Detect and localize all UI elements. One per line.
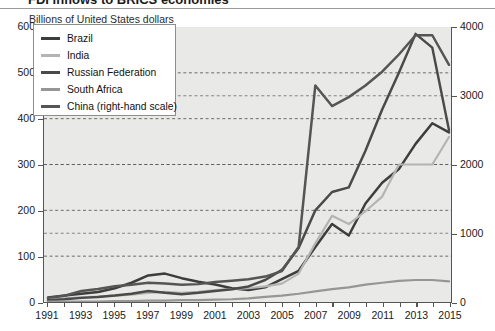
x-axis-tickmark — [332, 303, 333, 307]
chart-root: FDI inflows to BRICS economies Billions … — [0, 0, 495, 331]
x-axis-tickmark — [181, 303, 182, 307]
x-axis-tickmark — [148, 303, 149, 307]
x-axis-tickmark — [114, 303, 115, 307]
y-axis-right-tickmark — [452, 165, 457, 166]
legend-swatch-china — [41, 105, 60, 108]
y-axis-right-tickmark — [452, 96, 457, 97]
legend-label-china: China (right-hand scale) — [67, 101, 177, 112]
y-axis-right-tickmark — [452, 27, 457, 28]
y-axis-right-tick: 0 — [460, 296, 495, 308]
legend-item-0: Brazil — [41, 30, 175, 47]
x-axis-tickmark — [383, 303, 384, 307]
legend-label-brazil: Brazil — [67, 33, 93, 44]
y-axis-left-tick: 400 — [2, 112, 35, 124]
x-axis-tickmark — [198, 303, 199, 307]
y-axis-right-tick: 3000 — [460, 89, 495, 101]
chart-legend: Brazil India Russian Federation South Af… — [33, 24, 176, 116]
y-axis-left-tick: 300 — [2, 158, 35, 170]
legend-label-india: India — [67, 50, 89, 61]
y-axis-left-tick: 200 — [2, 204, 35, 216]
chart-title: FDI inflows to BRICS economies — [28, 0, 229, 7]
y-axis-left-tick: 500 — [2, 66, 35, 78]
x-axis-tickmark — [400, 303, 401, 307]
legend-swatch-russian-federation — [41, 71, 60, 74]
y-axis-right-tick: 4000 — [460, 20, 495, 32]
y-axis-right-tick: 1000 — [460, 227, 495, 239]
y-axis-left-tickmark — [38, 257, 43, 258]
y-axis-left-tickmark — [38, 303, 43, 304]
x-axis-tickmark — [450, 303, 451, 307]
legend-item-1: India — [41, 47, 175, 64]
x-axis-tickmark — [299, 303, 300, 307]
legend-swatch-south-africa — [41, 88, 60, 91]
x-axis-tickmark — [282, 303, 283, 307]
x-axis-tickmark — [215, 303, 216, 307]
y-axis-left-tick: 100 — [2, 250, 35, 262]
y-axis-right-tick: 2000 — [460, 158, 495, 170]
x-axis-tickmark — [416, 303, 417, 307]
x-axis-tickmark — [316, 303, 317, 307]
legend-label-south-africa: South Africa — [67, 84, 123, 95]
x-axis-tickmark — [366, 303, 367, 307]
y-axis-left-tick: 0 — [2, 296, 35, 308]
x-axis-tickmark — [97, 303, 98, 307]
header-divider — [0, 8, 495, 9]
x-axis-tick: 2015 — [430, 309, 470, 321]
y-axis-left-tickmark — [38, 119, 43, 120]
y-axis-left-tickmark — [38, 165, 43, 166]
legend-item-2: Russian Federation — [41, 64, 175, 81]
series-line — [48, 137, 449, 299]
x-axis-tickmark — [47, 303, 48, 307]
y-axis-left-tick: 600 — [2, 20, 35, 32]
x-axis-tickmark — [165, 303, 166, 307]
legend-item-4: China (right-hand scale) — [41, 98, 175, 115]
x-axis-tickmark — [265, 303, 266, 307]
y-axis-right-tickmark — [452, 234, 457, 235]
x-axis-tickmark — [131, 303, 132, 307]
y-axis-left-tickmark — [38, 211, 43, 212]
x-axis-tickmark — [232, 303, 233, 307]
x-axis-tickmark — [249, 303, 250, 307]
legend-swatch-india — [41, 54, 60, 57]
x-axis-tickmark — [81, 303, 82, 307]
x-axis-tickmark — [433, 303, 434, 307]
legend-item-3: South Africa — [41, 81, 175, 98]
legend-label-russian-federation: Russian Federation — [67, 67, 156, 78]
x-axis-tickmark — [64, 303, 65, 307]
legend-swatch-brazil — [41, 37, 60, 40]
y-axis-right-tickmark — [452, 303, 457, 304]
x-axis-tickmark — [349, 303, 350, 307]
